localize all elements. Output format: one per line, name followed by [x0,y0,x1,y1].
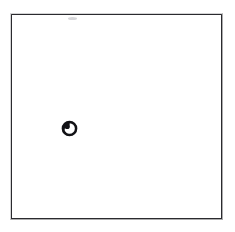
region-interior [12,15,221,218]
scan-smudge-artifact [68,17,77,20]
region-frame [11,14,222,219]
marked-point [61,120,78,137]
figure-canvas [0,0,235,232]
point-core-icon [64,123,69,128]
